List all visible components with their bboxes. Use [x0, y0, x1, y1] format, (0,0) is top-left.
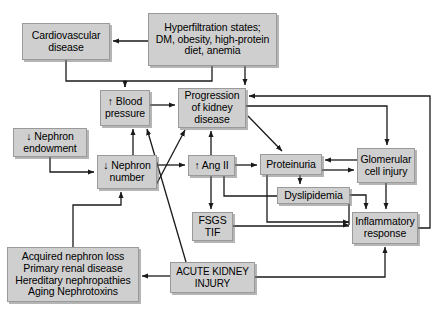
node-hyperfiltration-states[interactable]: Hyperfiltration states;DM, obesity, high… [148, 13, 277, 66]
edge-hyperfiltration-to-blood-pressure [125, 66, 212, 87]
node-label: ↓ Nephronnumber [98, 160, 156, 184]
node-label: Dyslipidemia [278, 190, 349, 202]
node-label: Progressionof kidneydisease [179, 90, 245, 125]
edge-progression-to-proteinuria [248, 116, 282, 151]
node-label: Inflammatoryresponse [353, 216, 417, 240]
node-proteinuria[interactable]: Proteinuria [260, 154, 322, 175]
node-fsgs-tif[interactable]: FSGSTIF [192, 212, 233, 241]
node-label: Acquired nephron lossPrimary renal disea… [8, 251, 138, 298]
edge-aki-to-blood-pressure [147, 129, 186, 262]
node-label: ↑ Ang II [189, 160, 234, 172]
node-label: ACUTE KIDNEYINJURY [171, 266, 254, 288]
node-label: Glomerularcell injury [358, 154, 414, 178]
node-glomerular-cell-injury[interactable]: Glomerularcell injury [357, 148, 415, 183]
node-acute-kidney-injury[interactable]: ACUTE KIDNEYINJURY [170, 262, 255, 293]
edge-dyslipidemia-to-inflammatory [350, 195, 366, 209]
node-progression-kidney-disease[interactable]: Progressionof kidneydisease [178, 88, 246, 128]
node-cardiovascular-disease[interactable]: Cardiovasculardisease [22, 23, 110, 60]
node-label: Cardiovasculardisease [23, 30, 109, 54]
node-nephron-endowment[interactable]: ↓ Nephronendowment [13, 128, 87, 157]
node-acquired-nephron-loss[interactable]: Acquired nephron lossPrimary renal disea… [7, 247, 139, 302]
node-label: FSGSTIF [193, 215, 232, 239]
node-label: Proteinuria [261, 159, 321, 171]
node-label: ↓ Nephronendowment [14, 131, 86, 155]
edge-nephron-endowment-to-nephron-number [50, 157, 94, 172]
edge-cardiovascular-to-blood-pressure [66, 60, 125, 87]
node-dyslipidemia[interactable]: Dyslipidemia [277, 187, 350, 204]
node-ang-ii[interactable]: ↑ Ang II [188, 155, 235, 176]
edge-aki-to-inflammatory [255, 247, 385, 277]
flowchart-canvas: Cardiovasculardisease Hyperfiltration st… [0, 0, 447, 318]
edge-acquired-to-nephron-number [73, 192, 121, 247]
node-label: ↑ Bloodpressure [101, 96, 149, 120]
node-nephron-number[interactable]: ↓ Nephronnumber [97, 155, 157, 189]
edge-progression-to-glomerular [246, 106, 387, 145]
node-inflammatory-response[interactable]: Inflammatoryresponse [352, 212, 418, 244]
edge-nephron-number-to-progression [155, 130, 185, 187]
edge-aki-branch-to-nephron-number [136, 192, 160, 262]
node-blood-pressure[interactable]: ↑ Bloodpressure [100, 90, 150, 126]
node-label: Hyperfiltration states;DM, obesity, high… [149, 22, 276, 57]
